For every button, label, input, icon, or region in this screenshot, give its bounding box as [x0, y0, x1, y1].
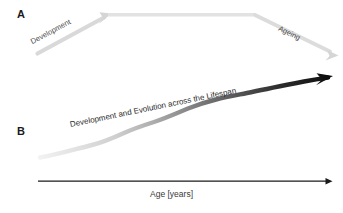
panel-letter-a: A: [17, 9, 25, 20]
axis-title-age-years: Age [years]: [0, 190, 343, 199]
age-axis-arrowhead: [326, 178, 333, 184]
panel-b-arrow-group: [40, 73, 333, 157]
lifespan-development-figure: A B Development Ageing Development and E…: [0, 0, 343, 213]
age-axis-group: [38, 178, 333, 184]
panel-letter-b: B: [17, 126, 25, 137]
